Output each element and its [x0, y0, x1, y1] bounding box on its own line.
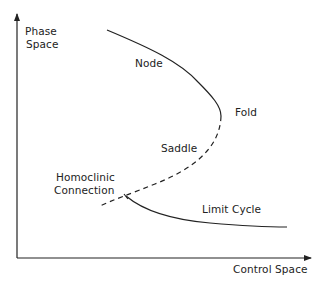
node-branch-curve — [107, 30, 221, 116]
node-label: Node — [135, 57, 163, 70]
fold-label: Fold — [235, 106, 257, 119]
x-axis-label: Control Space — [233, 263, 308, 276]
limit-cycle-label: Limit Cycle — [202, 203, 261, 216]
y-axis-label-line1: Phase — [25, 25, 57, 38]
homoclinic-label-line2: Connection — [54, 184, 114, 197]
saddle-branch-curve — [100, 116, 221, 206]
homoclinic-label-line1: Homoclinic — [56, 171, 115, 184]
saddle-label: Saddle — [161, 142, 197, 155]
y-axis-label-line2: Space — [26, 38, 59, 51]
